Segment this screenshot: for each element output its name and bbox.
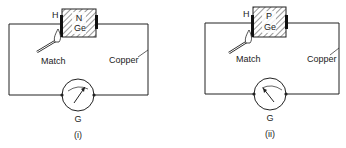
hot-contact <box>251 15 254 37</box>
material-label: Ge <box>74 23 86 33</box>
copper-label: Copper <box>109 55 139 65</box>
hot-end-label: H <box>52 10 59 20</box>
flame-icon <box>54 29 60 42</box>
copper-label: Copper <box>307 54 337 64</box>
circuit-diagram-ii: P Ge H Match Copper G (ii) <box>205 7 339 139</box>
diagram-caption: (ii) <box>265 129 275 139</box>
galvanometer-label: G <box>74 114 81 124</box>
material-label: Ge <box>264 22 276 32</box>
diagram-caption: (i) <box>74 130 82 140</box>
cold-contact <box>285 15 288 29</box>
hot-contact <box>60 15 63 37</box>
diagram-canvas: N Ge H Match Copper G (i) P Ge H <box>0 0 346 148</box>
circuit-diagram-i: N Ge H Match Copper G (i) <box>9 9 148 140</box>
semiconductor-type-label: N <box>76 13 83 23</box>
match-label: Match <box>41 56 66 66</box>
cold-contact <box>95 15 98 29</box>
galvanometer-icon <box>252 78 287 110</box>
hot-end-label: H <box>243 9 250 19</box>
semiconductor-type-label: P <box>266 11 272 21</box>
galvanometer-label: G <box>266 113 273 123</box>
flame-icon <box>245 30 251 43</box>
galvanometer-icon <box>60 79 95 111</box>
copper-leader-line <box>138 50 148 57</box>
match-label: Match <box>236 54 261 64</box>
